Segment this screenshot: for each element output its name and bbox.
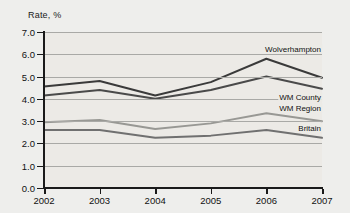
y-tick-label: 7.0 xyxy=(22,27,35,38)
series-line xyxy=(44,130,322,138)
line-chart: Rate, % 0.01.02.03.04.05.06.07.0 2002200… xyxy=(0,0,350,213)
y-tick xyxy=(37,54,44,55)
gridline xyxy=(44,32,322,33)
x-tick-label: 2003 xyxy=(89,195,110,206)
x-tick-label: 2005 xyxy=(200,195,221,206)
x-tick-label: 2007 xyxy=(311,195,332,206)
y-tick-label: 3.0 xyxy=(22,116,35,127)
series-label: WM Region xyxy=(278,104,322,113)
gridline xyxy=(44,77,322,78)
y-axis-title: Rate, % xyxy=(28,10,61,20)
x-tick-label: 2002 xyxy=(33,195,54,206)
series-label: Britain xyxy=(297,123,322,132)
x-tick-label: 2004 xyxy=(145,195,166,206)
y-tick-label: 4.0 xyxy=(22,93,35,104)
x-tick xyxy=(155,189,157,194)
series-label: Wolverhampton xyxy=(264,44,322,53)
x-tick xyxy=(44,189,46,194)
y-tick-label: 2.0 xyxy=(22,138,35,149)
series-label: WM County xyxy=(278,92,322,101)
gridline xyxy=(44,121,322,122)
gridline xyxy=(44,143,322,144)
y-tick-label: 1.0 xyxy=(22,160,35,171)
x-tick xyxy=(266,189,268,194)
y-tick-label: 0.0 xyxy=(22,183,35,194)
y-tick xyxy=(37,166,44,167)
x-tick xyxy=(211,189,213,194)
y-tick xyxy=(37,99,44,100)
x-axis-line xyxy=(43,187,323,189)
y-tick xyxy=(37,32,44,33)
y-tick-label: 6.0 xyxy=(22,49,35,60)
x-tick xyxy=(100,189,102,194)
y-tick-label: 5.0 xyxy=(22,71,35,82)
x-tick-label: 2006 xyxy=(256,195,277,206)
y-tick xyxy=(37,77,44,78)
y-tick xyxy=(37,188,44,189)
y-tick xyxy=(37,121,44,122)
gridline xyxy=(44,54,322,55)
x-tick xyxy=(322,189,324,194)
y-tick xyxy=(37,143,44,144)
gridline xyxy=(44,166,322,167)
